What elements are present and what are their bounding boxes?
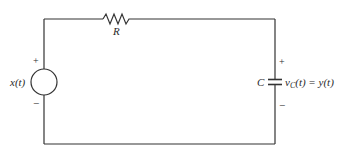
rc-circuit-diagram: R + − x(t) + − C vC(t) = y(t)	[0, 0, 346, 153]
source-plus-sign: +	[33, 55, 39, 66]
capacitor-plus-sign: +	[279, 56, 285, 67]
voltage-source-icon	[31, 69, 57, 95]
capacitor-voltage-label: vC(t) = y(t)	[285, 76, 334, 90]
capacitor-label: C	[257, 76, 265, 88]
source-minus-sign: −	[33, 97, 39, 109]
capacitor-minus-sign: −	[279, 99, 285, 111]
resistor-label: R	[112, 25, 120, 37]
resistor-icon	[103, 14, 131, 24]
voltage-rest: (t) = y(t)	[295, 76, 334, 89]
source-label: x(t)	[9, 76, 26, 89]
